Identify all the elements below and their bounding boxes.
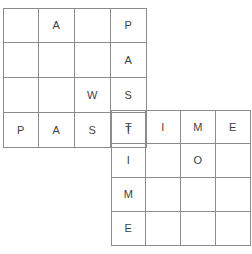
crossword-puzzle: APAWSPAST TIMEIOME xyxy=(0,0,252,254)
grid-cell-empty[interactable] xyxy=(3,43,39,78)
grid-cell-letter[interactable]: A xyxy=(111,43,147,78)
grid-cell-letter[interactable]: A xyxy=(39,8,75,43)
grid-cell-empty[interactable] xyxy=(3,8,39,43)
grid-cell-empty[interactable] xyxy=(39,43,75,78)
grid-cell-empty[interactable] xyxy=(216,178,251,212)
grid-cell-letter[interactable]: O xyxy=(181,144,216,178)
grid-cell-letter[interactable]: I xyxy=(146,110,181,144)
grid-cell-letter[interactable]: A xyxy=(39,113,75,148)
grid-cell-letter[interactable]: M xyxy=(111,178,146,212)
grid-cell-empty[interactable] xyxy=(181,212,216,246)
grid-cell-letter[interactable]: P xyxy=(111,8,147,43)
grid-cell-empty[interactable] xyxy=(39,78,75,113)
grid-cell-letter[interactable]: S xyxy=(75,113,111,148)
grid-cell-empty[interactable] xyxy=(146,144,181,178)
grid-cell-letter[interactable]: P xyxy=(3,113,39,148)
grid-cell-letter[interactable]: I xyxy=(111,144,146,178)
grid-cell-empty[interactable] xyxy=(146,212,181,246)
grid-cell-empty[interactable] xyxy=(75,43,111,78)
grid-cell-empty[interactable] xyxy=(216,212,251,246)
grid-cell-letter[interactable]: M xyxy=(181,110,216,144)
grid-cell-empty[interactable] xyxy=(3,78,39,113)
grid-cell-empty[interactable] xyxy=(216,144,251,178)
grid-cell-letter[interactable]: E xyxy=(111,212,146,246)
grid-cell-empty[interactable] xyxy=(181,178,216,212)
grid-cell-empty[interactable] xyxy=(146,178,181,212)
grid-cell-empty[interactable] xyxy=(75,8,111,43)
grid-cell-letter[interactable]: T xyxy=(111,110,146,144)
lower-right-block: TIMEIOME xyxy=(111,110,251,246)
grid-cell-letter[interactable]: W xyxy=(75,78,111,113)
grid-cell-letter[interactable]: E xyxy=(216,110,251,144)
grid-cell-letter[interactable]: S xyxy=(111,78,147,113)
